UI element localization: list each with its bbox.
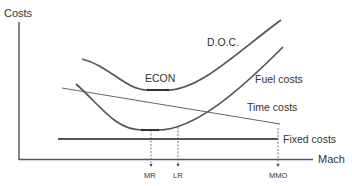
fixed-costs-label: Fixed costs (283, 133, 336, 145)
cost-vs-mach-diagram: Costs Mach Fixed costs Time costs D.O.C.… (0, 0, 352, 186)
x-axis-label: Mach (318, 153, 345, 165)
time-costs-label: Time costs (247, 101, 297, 113)
doc-label: D.O.C. (207, 36, 239, 48)
econ-label: ECON (145, 72, 175, 84)
doc-curve (82, 20, 281, 90)
y-axis-label: Costs (4, 7, 33, 19)
mr-label: MR (144, 171, 156, 180)
fuel-costs-label: Fuel costs (255, 73, 303, 85)
mmo-label: MMO (269, 171, 287, 180)
lr-label: LR (173, 171, 183, 180)
